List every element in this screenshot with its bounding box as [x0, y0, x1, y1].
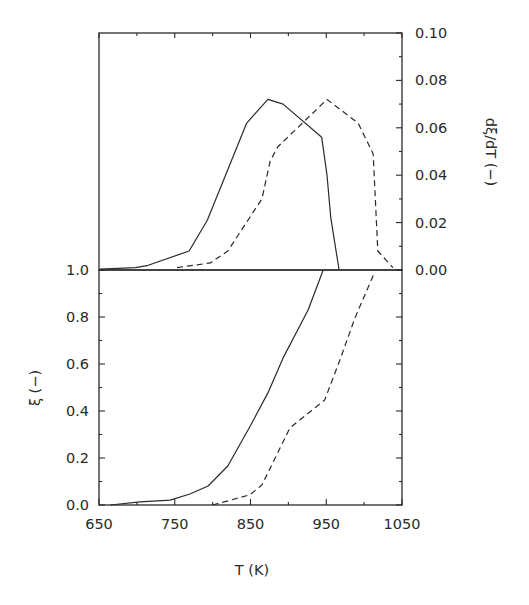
lower-y-axis-title: ξ (−)	[27, 370, 43, 406]
dashed-curve	[177, 99, 393, 267]
y-tick-label: 0.6	[66, 356, 89, 372]
dashed-curve	[213, 272, 375, 505]
lower-plot-frame	[99, 270, 402, 505]
x-tick-label: 650	[85, 516, 113, 532]
y-tick-label: 0.08	[415, 72, 447, 88]
solid-curve	[110, 270, 323, 505]
y-tick-label: 0.10	[415, 25, 447, 41]
upper-y-axis-title: dξ/dT (−)	[483, 118, 499, 186]
y-tick-label: 0.02	[415, 215, 447, 231]
chart-figure: 0.000.020.040.060.080.10 dξ/dT (−) 0.00.…	[0, 0, 529, 605]
y-tick-label: 0.06	[415, 120, 447, 136]
y-tick-label: 0.4	[66, 403, 89, 419]
y-tick-label: 0.8	[66, 309, 89, 325]
x-tick-label: 1050	[384, 516, 421, 532]
y-tick-label: 1.0	[66, 262, 89, 278]
x-axis-title: T (K)	[234, 562, 269, 578]
lower-panel: 0.00.20.40.60.81.0 6507508509501050 ξ (−…	[27, 262, 420, 578]
upper-y-tick-labels: 0.000.020.040.060.080.10	[415, 25, 447, 278]
x-tick-label: 850	[237, 516, 265, 532]
x-tick-labels: 6507508509501050	[85, 516, 420, 532]
x-tick-label: 750	[161, 516, 189, 532]
y-tick-label: 0.00	[415, 262, 447, 278]
upper-ticks	[99, 33, 402, 270]
solid-curve	[100, 99, 339, 270]
y-tick-label: 0.2	[66, 450, 89, 466]
upper-panel: 0.000.020.040.060.080.10 dξ/dT (−)	[99, 25, 499, 278]
lower-ticks	[99, 270, 402, 505]
x-tick-label: 950	[312, 516, 340, 532]
upper-plot-frame	[99, 33, 402, 270]
upper-series	[100, 99, 393, 270]
y-tick-label: 0.0	[66, 497, 89, 513]
y-tick-label: 0.04	[415, 167, 447, 183]
lower-y-tick-labels: 0.00.20.40.60.81.0	[66, 262, 89, 513]
lower-series	[110, 270, 374, 505]
